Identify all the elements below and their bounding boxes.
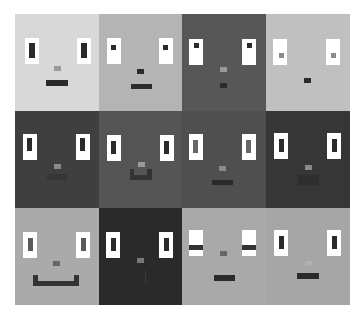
nose <box>138 162 145 167</box>
mouth <box>297 273 319 279</box>
mouth <box>298 175 319 185</box>
face-cell-11 <box>182 208 266 305</box>
right-pupil <box>81 238 86 251</box>
right-pupil <box>80 138 85 151</box>
left-pupil <box>111 141 116 154</box>
face-cell-9 <box>15 208 99 305</box>
left-pupil <box>28 238 33 251</box>
nose <box>305 165 312 170</box>
nose <box>219 166 226 171</box>
mouth <box>212 180 233 185</box>
nose <box>220 67 227 72</box>
left-pupil <box>279 139 284 152</box>
mouth <box>304 78 311 83</box>
right-pupil <box>332 236 337 249</box>
right-pupil <box>332 139 337 152</box>
left-eye-white <box>107 38 121 64</box>
right-pupil <box>246 140 251 153</box>
right-pupil <box>164 141 169 154</box>
face-grid <box>15 14 349 305</box>
nose <box>54 66 61 71</box>
nose <box>304 69 311 74</box>
mouth <box>147 169 152 179</box>
nose <box>137 258 144 263</box>
mouth <box>214 275 235 281</box>
left-pupil <box>29 43 35 58</box>
mouth <box>220 83 227 88</box>
right-pupil <box>247 43 252 48</box>
mouth <box>33 281 79 286</box>
face-cell-1 <box>15 14 99 111</box>
left-pupil <box>279 53 284 58</box>
right-pupil <box>242 245 256 250</box>
face-cell-7 <box>182 111 266 208</box>
face-cell-2 <box>99 14 183 111</box>
left-eye-white <box>273 39 287 65</box>
right-eye-white <box>242 230 256 256</box>
right-pupil <box>163 45 168 50</box>
left-pupil <box>189 245 203 250</box>
left-pupil <box>27 138 32 151</box>
face-cell-10 <box>99 208 183 305</box>
mouth <box>145 270 146 284</box>
left-pupil <box>111 238 116 251</box>
nose <box>54 164 61 169</box>
mouth <box>47 174 67 180</box>
nose <box>305 261 312 266</box>
left-eye-white <box>189 230 203 256</box>
left-pupil <box>193 140 198 153</box>
right-eye-white <box>159 38 173 64</box>
face-cell-6 <box>99 111 183 208</box>
right-pupil <box>81 43 87 58</box>
mouth <box>74 275 79 284</box>
face-cell-8 <box>266 111 350 208</box>
right-pupil <box>331 53 336 58</box>
nose <box>220 251 227 256</box>
face-cell-3 <box>182 14 266 111</box>
left-pupil <box>279 236 284 249</box>
face-cell-12 <box>266 208 350 305</box>
mouth <box>46 80 68 86</box>
nose <box>53 261 60 266</box>
left-pupil <box>111 45 116 50</box>
face-cell-5 <box>15 111 99 208</box>
mouth <box>131 84 152 89</box>
nose <box>137 69 144 74</box>
left-pupil <box>194 43 199 48</box>
right-eye-white <box>326 39 340 65</box>
face-cell-4 <box>266 14 350 111</box>
right-pupil <box>164 238 169 251</box>
